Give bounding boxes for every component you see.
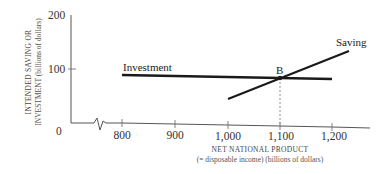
investment-line bbox=[122, 75, 332, 79]
equilibrium-point-b bbox=[278, 76, 282, 80]
x-axis-title: NET NATIONAL PRODUCT bbox=[212, 145, 309, 154]
x-tick-label-900: 900 bbox=[166, 129, 184, 141]
point-b-label: B bbox=[276, 64, 283, 76]
y-tick-label-100: 100 bbox=[48, 63, 66, 75]
x-tick-label-1200: 1,200 bbox=[321, 130, 347, 143]
saving-investment-chart: 200 100 0 800 900 1,000 1,100 1,200 Inve… bbox=[0, 0, 389, 174]
x-tick-label-800: 800 bbox=[113, 129, 131, 141]
y-tick-label-0: 0 bbox=[56, 125, 62, 137]
saving-line bbox=[228, 51, 349, 99]
x-tick-label-1100: 1,100 bbox=[268, 130, 294, 143]
y-axis-title-line1: INTENDED SAVING OR bbox=[24, 30, 33, 115]
y-axis-title-line2: INVESTMENT (billions of dollars) bbox=[34, 18, 43, 126]
x-tick-label-1000: 1,000 bbox=[215, 130, 241, 143]
saving-label: Saving bbox=[336, 36, 367, 48]
y-tick-label-200: 200 bbox=[48, 9, 66, 21]
x-axis-subtitle: (= disposable income) (billions of dolla… bbox=[197, 155, 324, 164]
investment-label: Investment bbox=[123, 61, 172, 73]
